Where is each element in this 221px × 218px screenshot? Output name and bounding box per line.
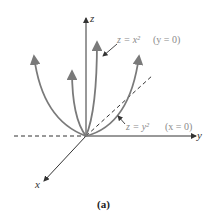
x-axis bbox=[44, 136, 86, 181]
curve-left-inner bbox=[72, 71, 86, 136]
pointer-arrow-y2 bbox=[118, 116, 125, 124]
condition-x0: (x = 0) bbox=[165, 121, 192, 132]
equation-z-y2: z = y² bbox=[126, 121, 149, 132]
y-axis-label: y bbox=[197, 129, 202, 141]
condition-y0: (y = 0) bbox=[153, 34, 180, 45]
figure-caption: (a) bbox=[97, 198, 110, 210]
curve-left-outer bbox=[34, 56, 86, 136]
curve-z-x2 bbox=[86, 42, 97, 136]
equation-z-x2: z = x² bbox=[117, 34, 140, 45]
z-axis-label: z bbox=[90, 12, 94, 24]
surface-diagram bbox=[0, 0, 221, 218]
pointer-arrow-x2 bbox=[103, 44, 117, 56]
x-axis-label: x bbox=[35, 178, 40, 190]
